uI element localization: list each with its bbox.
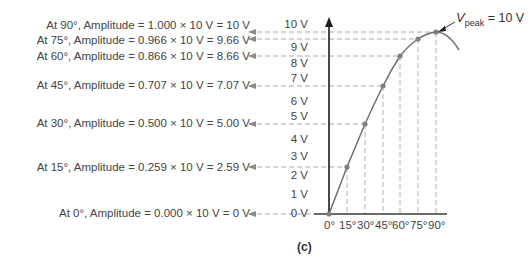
x-tick-45: 45° xyxy=(375,220,392,232)
y-tick-1: 1 V xyxy=(291,189,308,201)
amplitude-row-45deg: At 45°, Amplitude = 0.707 × 10 V = 7.07 … xyxy=(37,80,250,92)
sine-amplitude-diagram: At 0°, Amplitude = 0.000 × 10 V = 0 V At… xyxy=(0,0,532,264)
y-tick-10: 10 V xyxy=(284,19,308,31)
vertical-projection-lines xyxy=(347,32,436,214)
sine-curve xyxy=(329,32,459,214)
amplitude-row-15deg: At 15°, Amplitude = 0.259 × 10 V = 2.59 … xyxy=(37,162,250,174)
figure-caption: (c) xyxy=(297,241,312,253)
x-tick-75: 75° xyxy=(410,220,427,232)
y-tick-3: 3 V xyxy=(291,151,308,163)
x-tick-30: 30° xyxy=(357,220,374,232)
x-tick-90: 90° xyxy=(428,220,445,232)
horizontal-projection-lines xyxy=(249,32,436,214)
amplitude-row-75deg: At 75°, Amplitude = 0.966 × 10 V = 9.66 … xyxy=(37,35,250,47)
data-points xyxy=(326,29,438,216)
amplitude-row-90deg: At 90°, Amplitude = 1.000 × 10 V = 10 V xyxy=(46,20,250,32)
peak-voltage-label: Vpeak = 10 V xyxy=(456,11,524,28)
amplitude-row-30deg: At 30°, Amplitude = 0.500 × 10 V = 5.00 … xyxy=(37,118,250,130)
y-tick-7: 7 V xyxy=(291,73,308,85)
y-tick-5: 5 V xyxy=(291,111,308,123)
y-tick-8: 8 V xyxy=(291,58,308,70)
y-tick-4: 4 V xyxy=(291,134,308,146)
y-tick-2: 2 V xyxy=(291,170,308,182)
y-tick-9: 9 V xyxy=(291,42,308,54)
axes xyxy=(314,17,447,214)
peak-pointer-arrow-icon xyxy=(438,26,446,32)
y-axis-arrow-icon xyxy=(325,17,333,27)
y-tick-0: 0 V xyxy=(291,208,308,220)
x-tick-60: 60° xyxy=(392,220,409,232)
y-tick-6: 6 V xyxy=(291,96,308,108)
x-tick-15: 15° xyxy=(339,220,356,232)
x-tick-0: 0° xyxy=(324,220,335,232)
amplitude-row-0deg: At 0°, Amplitude = 0.000 × 10 V = 0 V xyxy=(59,208,250,220)
amplitude-row-60deg: At 60°, Amplitude = 0.866 × 10 V = 8.66 … xyxy=(37,51,250,63)
